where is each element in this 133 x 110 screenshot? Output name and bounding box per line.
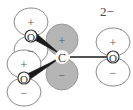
lobe-sign-o-upper-left-positive: + — [28, 16, 35, 30]
lobe-sign-c-center-negative: − — [59, 68, 66, 82]
atom-label-o-upper-left: O — [27, 31, 35, 43]
lobe-sign-o-right-positive: + — [110, 36, 117, 50]
atom-label-o-lower-left: O — [20, 73, 28, 85]
lobe-sign-o-upper-left-negative: − — [28, 44, 35, 58]
lobe-sign-c-center-positive: + — [59, 34, 66, 48]
molecular-orbital-diagram: + − + − + − + − C O O O 2− — [0, 0, 133, 110]
atom-label-c-center: C — [58, 51, 66, 65]
atom-label-o-right: O — [109, 52, 117, 64]
lobe-sign-o-lower-left-negative: − — [21, 86, 28, 100]
overall-charge-label: 2− — [100, 5, 114, 18]
lobe-sign-o-lower-left-positive: + — [21, 58, 28, 72]
lobe-sign-o-right-negative: − — [110, 66, 117, 80]
